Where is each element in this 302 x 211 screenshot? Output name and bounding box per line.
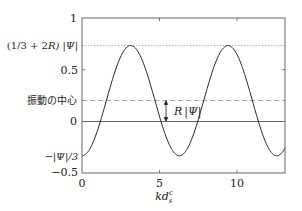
x-tick-label-0: 0 [79, 177, 86, 190]
oscillation-chart: R|Ψ| 1 (1/3 + 2R) |Ψ| 0.5 振動の中心 0 −|Ψ|/3… [0, 0, 302, 211]
y-tick-label-peak: (1/3 + 2R) |Ψ| [7, 40, 78, 52]
R-psi-arrow [164, 101, 167, 121]
ticks [82, 18, 285, 173]
y-tick-label-0: 0 [70, 115, 77, 128]
R-psi-label: R|Ψ| [173, 105, 201, 119]
y-tick-label-min: −|Ψ|/3 [44, 151, 78, 163]
y-tick-label-center: 振動の中心 [27, 94, 77, 106]
x-tick-label-10: 10 [230, 177, 244, 190]
x-tick-label-5: 5 [156, 177, 163, 190]
x-axis-title: kdcs [155, 189, 173, 205]
y-tick-label-1: 1 [70, 12, 77, 25]
y-tick-label-0.5: 0.5 [61, 64, 79, 77]
y-tick-label-neg-0.5: −0.5 [51, 166, 78, 179]
plot-frame [82, 18, 285, 173]
